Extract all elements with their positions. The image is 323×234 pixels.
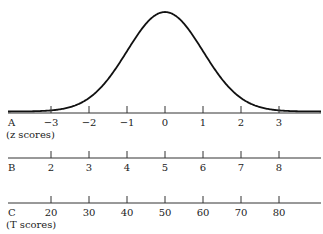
scale-label: B xyxy=(8,162,15,173)
scale-sublabel: (T scores) xyxy=(6,219,56,230)
tick-label: 1 xyxy=(200,117,206,128)
tick-label: −1 xyxy=(120,117,135,128)
tick-label: 0 xyxy=(162,117,168,128)
tick-label: −2 xyxy=(82,117,97,128)
tick-label: 7 xyxy=(238,162,244,173)
tick-label: 60 xyxy=(197,207,210,218)
tick-label: 70 xyxy=(235,207,248,218)
scale-sublabel: (z scores) xyxy=(6,129,55,140)
normal-curve xyxy=(8,12,321,111)
tick-label: 3 xyxy=(86,162,92,173)
tick-label: 4 xyxy=(124,162,130,173)
scale-label: C xyxy=(8,207,16,218)
normal-distribution-chart: −3−2−10123A(z scores)2345678B20304050607… xyxy=(0,0,323,234)
tick-label: 2 xyxy=(238,117,244,128)
tick-label: 6 xyxy=(200,162,206,173)
tick-label: 2 xyxy=(48,162,54,173)
scale-c: 20304050607080C(T scores) xyxy=(6,196,321,230)
scale-label: A xyxy=(7,117,16,128)
tick-label: 20 xyxy=(45,207,58,218)
tick-label: 30 xyxy=(83,207,96,218)
tick-label: 40 xyxy=(121,207,134,218)
tick-label: −3 xyxy=(44,117,59,128)
scale-b: 2345678B xyxy=(8,151,321,173)
tick-label: 5 xyxy=(162,162,168,173)
tick-label: 80 xyxy=(273,207,286,218)
scale-a: −3−2−10123A(z scores) xyxy=(6,106,321,140)
tick-label: 3 xyxy=(276,117,282,128)
tick-label: 8 xyxy=(276,162,282,173)
tick-label: 50 xyxy=(159,207,172,218)
